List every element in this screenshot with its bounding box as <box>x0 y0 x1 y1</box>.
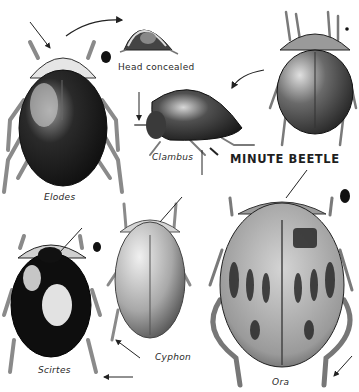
pointer-line <box>286 170 307 198</box>
ora-beetle <box>210 198 352 385</box>
label-clambus: Clambus <box>152 152 193 162</box>
head-concealed-detail <box>120 30 178 54</box>
pointer-arrow <box>116 340 140 358</box>
size-reference-icon <box>101 51 111 63</box>
size-reference-icon <box>345 27 349 31</box>
pointer-arrow <box>210 148 218 155</box>
scirtes-beetle <box>4 236 100 372</box>
label-scirtes: Scirtes <box>38 365 71 375</box>
clambus-beetle <box>135 90 254 155</box>
pointer-arrow <box>66 20 122 36</box>
size-reference-icon <box>93 242 101 252</box>
pointer-arrow <box>232 70 264 88</box>
pointer-arrow <box>334 356 352 376</box>
label-head-concealed: Head concealed <box>118 62 195 72</box>
size-reference-icon <box>340 189 350 203</box>
elodes-beetle <box>4 42 122 192</box>
label-cyphon: Cyphon <box>155 352 191 362</box>
label-ora: Ora <box>272 377 289 387</box>
label-elodes: Elodes <box>44 192 75 202</box>
plate-title: MINUTE BEETLE <box>230 152 340 166</box>
cyphon-beetle <box>108 204 190 340</box>
round-beetle <box>270 12 356 145</box>
pointer-line <box>160 197 182 222</box>
